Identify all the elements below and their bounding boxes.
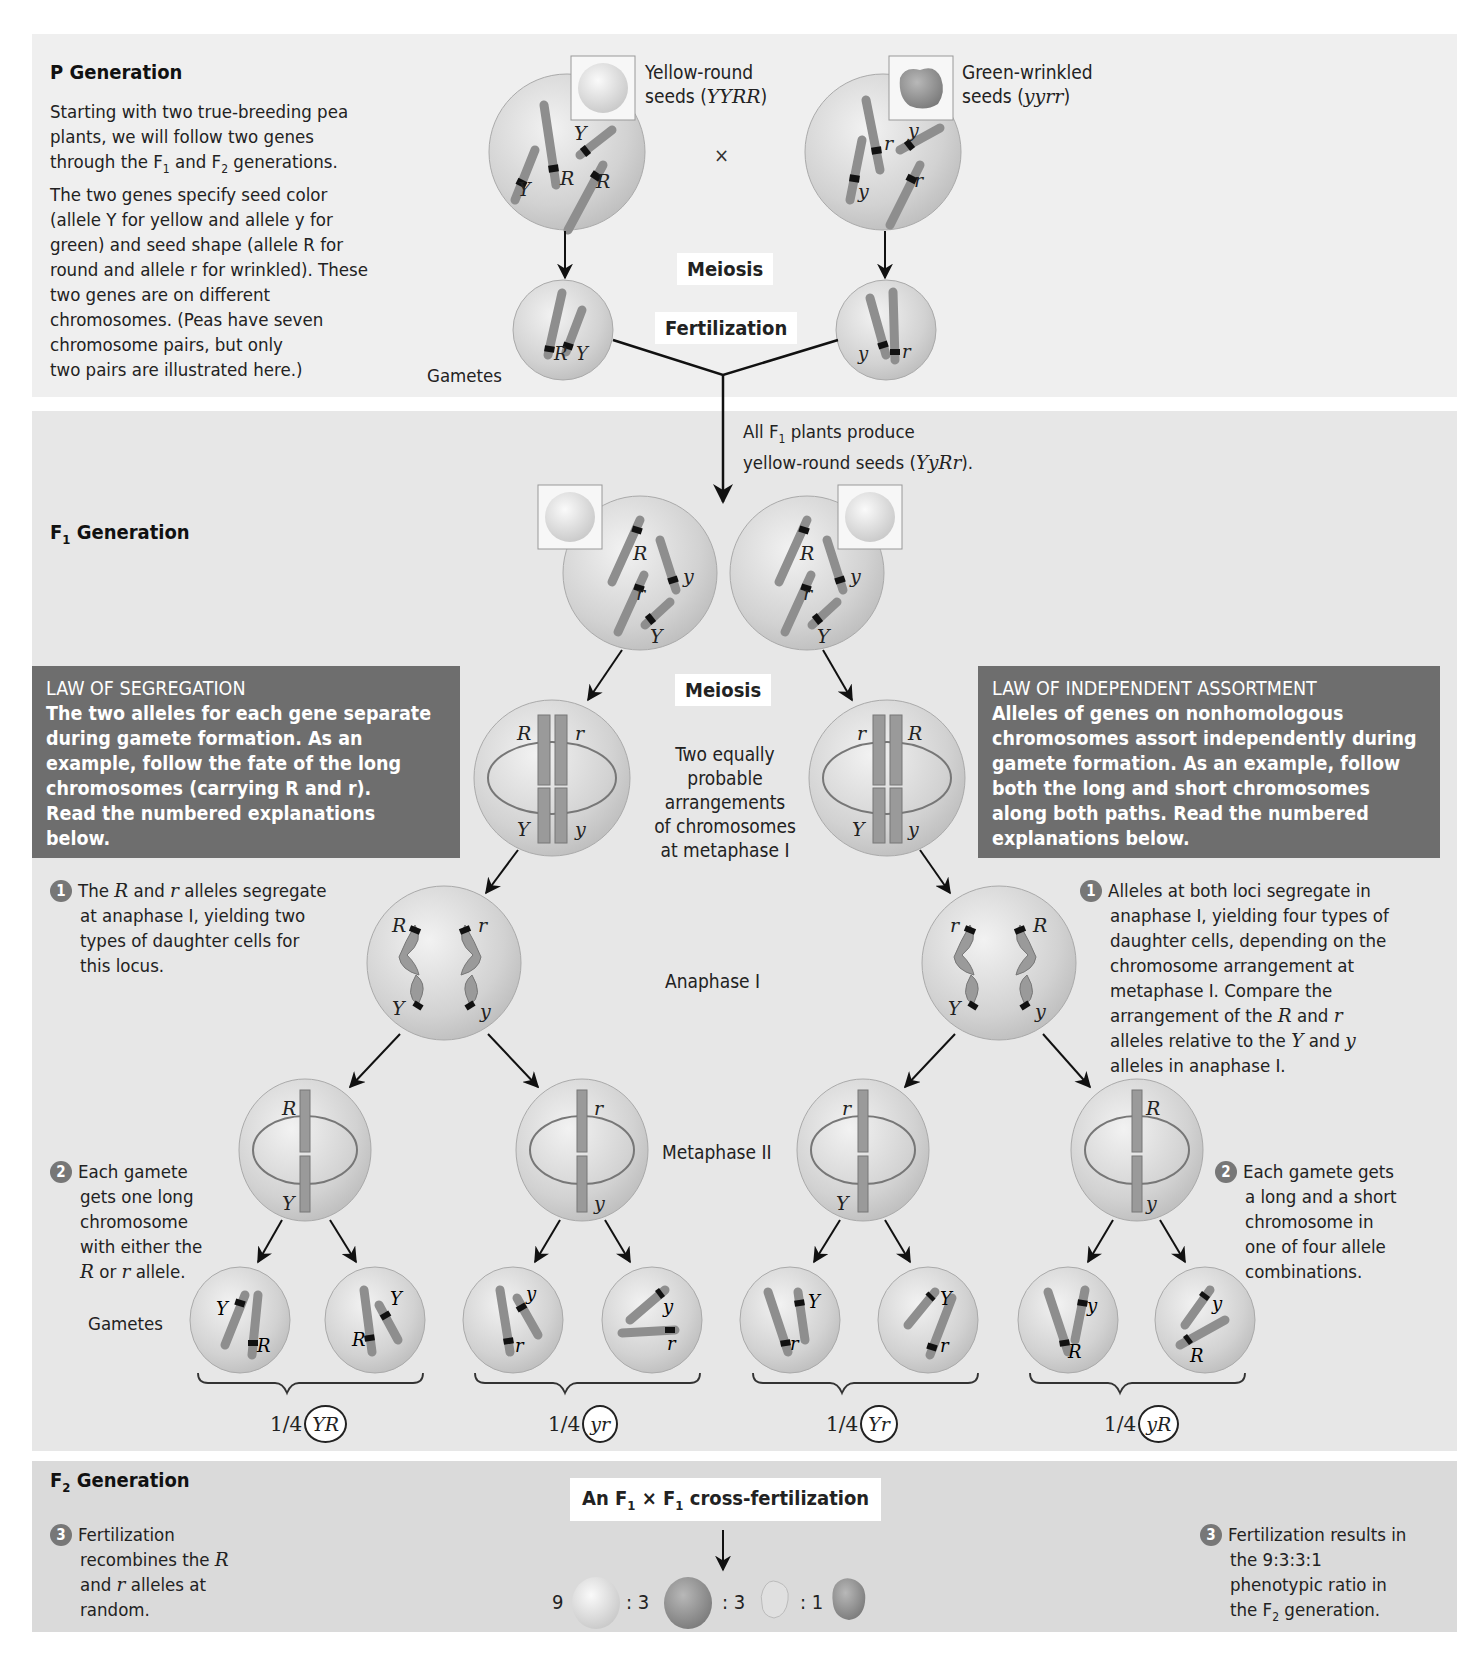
f1-seed-left bbox=[538, 485, 602, 549]
svg-text:y: y bbox=[682, 565, 694, 587]
line: of chromosomes bbox=[630, 814, 820, 838]
law-line: Alleles of genes on nonhomologous bbox=[992, 701, 1426, 726]
metaphase2-cell-4: Ry bbox=[1071, 1079, 1203, 1221]
svg-text:y: y bbox=[857, 180, 869, 202]
law-body: Alleles of genes on nonhomologous chromo… bbox=[992, 701, 1426, 851]
fraction: 1/4 bbox=[548, 1412, 580, 1436]
right-step-1: 1Alleles at both loci segregate in anaph… bbox=[1080, 878, 1450, 1078]
law-line: example, follow the fate of the long bbox=[46, 751, 446, 776]
svg-text:R: R bbox=[553, 343, 568, 364]
fraction: 1/4 bbox=[826, 1412, 858, 1436]
genotype-circle: YR bbox=[304, 1405, 347, 1443]
t: yellow-round seeds ( bbox=[743, 452, 916, 473]
step-line: 2Each gamete gets bbox=[1215, 1159, 1445, 1184]
step-line: at anaphase I, yielding two bbox=[50, 903, 360, 928]
desc-line: green) and seed shape (allele R for bbox=[50, 232, 420, 257]
svg-text:R: R bbox=[907, 722, 922, 744]
svg-text:y: y bbox=[907, 119, 919, 141]
step-line: and r alleles at bbox=[50, 1572, 270, 1597]
genotype-circle: yr bbox=[582, 1405, 618, 1443]
parent-seed-green-wrinkled bbox=[889, 56, 953, 120]
fraction: 1/4 bbox=[1104, 1412, 1136, 1436]
law-line: both the long and short chromosomes bbox=[992, 776, 1426, 801]
t: plants produce bbox=[785, 421, 914, 442]
seed-label-line: Green-wrinkled bbox=[962, 60, 1093, 84]
gamete-fraction-yr-mixed2: 1/4yR bbox=[1104, 1405, 1179, 1443]
p-meiosis-label: Meiosis bbox=[677, 253, 773, 285]
svg-text:R: R bbox=[281, 1097, 296, 1119]
step-line: daughter cells, depending on the bbox=[1080, 928, 1450, 953]
step-number-badge: 3 bbox=[50, 1524, 72, 1546]
paren: ) bbox=[1063, 85, 1070, 107]
cross-symbol: × bbox=[714, 143, 729, 167]
desc-line: chromosomes. (Peas have seven bbox=[50, 307, 420, 332]
desc-line: plants, we will follow two genes bbox=[50, 124, 420, 149]
step-line: the F2 generation. bbox=[1200, 1597, 1450, 1630]
left-step-2: 2Each gamete gets one long chromosome wi… bbox=[50, 1159, 250, 1284]
right-step-2: 2Each gamete gets a long and a short chr… bbox=[1215, 1159, 1445, 1284]
step-line: chromosome bbox=[50, 1209, 250, 1234]
f2-seed-green-wrinkled bbox=[832, 1578, 865, 1620]
f1-generation-title: F1 Generation bbox=[50, 520, 190, 547]
t: Fertilization results in bbox=[1228, 1524, 1406, 1545]
svg-text:y: y bbox=[1086, 1295, 1098, 1316]
step-line: metaphase I. Compare the bbox=[1080, 978, 1450, 1003]
svg-text:R: R bbox=[1032, 914, 1047, 936]
svg-text:y: y bbox=[574, 818, 586, 840]
anaphase1-cell-left: RrYy bbox=[367, 886, 521, 1040]
svg-text:y: y bbox=[593, 1192, 605, 1214]
genotype: YYRR bbox=[707, 85, 761, 107]
gamete-cell-yr-p2: yr bbox=[836, 280, 936, 380]
step-number-badge: 2 bbox=[1215, 1161, 1237, 1183]
gamete-braces bbox=[198, 1373, 1245, 1393]
svg-text:y: y bbox=[525, 1283, 537, 1304]
ratio-count-9: 9 bbox=[552, 1590, 563, 1614]
step-line: with either the bbox=[50, 1234, 250, 1259]
metaphase2-cell-1: RY bbox=[239, 1079, 371, 1221]
parent-seed-yellow-round bbox=[571, 56, 635, 120]
step-line: combinations. bbox=[1215, 1259, 1445, 1284]
gamete-cell-ry-p1: RY bbox=[513, 280, 613, 380]
desc-line: The two genes specify seed color bbox=[50, 182, 420, 207]
f1-seed-right bbox=[838, 485, 902, 549]
anaphase1-cell-right: rRYy bbox=[922, 886, 1076, 1040]
line: arrangements bbox=[630, 790, 820, 814]
seed-label-text: seeds ( bbox=[962, 85, 1024, 107]
metaphase1-label: Two equally probable arrangements of chr… bbox=[630, 742, 820, 862]
step-line: types of daughter cells for bbox=[50, 928, 360, 953]
step-line: chromosome arrangement at bbox=[1080, 953, 1450, 978]
svg-text:R: R bbox=[595, 170, 610, 192]
seed-label-line: seeds (YYRR) bbox=[645, 84, 767, 108]
step-line: 3Fertilization results in bbox=[1200, 1522, 1450, 1547]
svg-text:r: r bbox=[902, 341, 912, 362]
gamete-fraction-yr-mixed: 1/4Yr bbox=[826, 1405, 898, 1443]
f1-gametes-label: Gametes bbox=[88, 1311, 163, 1336]
t: Generation bbox=[70, 520, 189, 544]
svg-text:r: r bbox=[515, 1335, 525, 1356]
t: Each gamete bbox=[78, 1161, 188, 1182]
step-line: a long and a short bbox=[1215, 1184, 1445, 1209]
t: F bbox=[50, 520, 62, 544]
f1-meiosis-label: Meiosis bbox=[675, 674, 771, 706]
metaphase2-cell-2: ry bbox=[516, 1079, 648, 1221]
metaphase1-cell-right: rRYy bbox=[809, 700, 965, 856]
seed-label-line: Yellow-round bbox=[645, 60, 767, 84]
svg-text:y: y bbox=[857, 343, 869, 364]
svg-text:r: r bbox=[790, 1333, 800, 1354]
f1-cross-label: An F1 × F1 cross-fertilization bbox=[570, 1478, 881, 1521]
law-line: below. bbox=[46, 826, 446, 851]
step-line: chromosome in bbox=[1215, 1209, 1445, 1234]
p-fertilization-label: Fertilization bbox=[655, 312, 797, 344]
step-line: gets one long bbox=[50, 1184, 250, 1209]
svg-text:R: R bbox=[391, 914, 406, 936]
svg-text:y: y bbox=[662, 1296, 674, 1317]
paren: ) bbox=[761, 85, 768, 107]
line: at metaphase I bbox=[630, 838, 820, 862]
step-line: random. bbox=[50, 1597, 270, 1622]
law-title: LAW OF INDEPENDENT ASSORTMENT bbox=[992, 676, 1426, 701]
t: Alleles at both loci segregate in bbox=[1108, 880, 1371, 901]
law-title: LAW OF SEGREGATION bbox=[46, 676, 446, 701]
t: All F bbox=[743, 421, 779, 442]
law-line: along both paths. Read the numbered bbox=[992, 801, 1426, 826]
left-step-1: 1The R and r alleles segregate at anapha… bbox=[50, 878, 360, 978]
